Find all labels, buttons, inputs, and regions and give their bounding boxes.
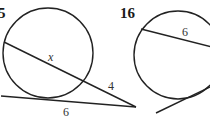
label-tangent: 6 (63, 105, 69, 117)
circle (134, 11, 210, 99)
tangent-line (156, 86, 210, 113)
chord-line (141, 29, 210, 47)
label-secant-external: 4 (108, 79, 114, 93)
problem-16-figure: 16 6 (120, 5, 210, 113)
label-x: x (47, 50, 54, 64)
problem-number: 16 (120, 5, 136, 21)
geometry-figure: 5 x 4 6 16 6 (0, 0, 210, 117)
problem-15-figure: 5 x 4 6 (0, 5, 136, 117)
label-chord: 6 (182, 25, 188, 39)
problem-number: 5 (0, 5, 6, 21)
